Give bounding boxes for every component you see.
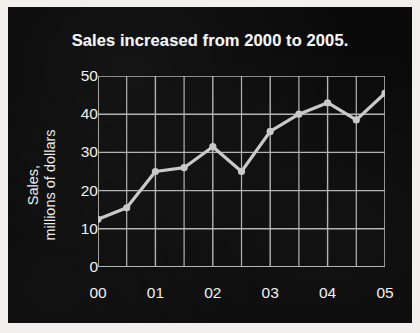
- data-point-marker: [267, 128, 274, 135]
- data-point-marker: [209, 143, 216, 150]
- data-point-marker: [181, 164, 188, 171]
- x-tick-label: 01: [135, 285, 175, 301]
- x-tick-label: 03: [250, 285, 290, 301]
- plot-area: [98, 76, 385, 267]
- data-point-marker: [353, 116, 360, 123]
- x-tick-label: 02: [193, 285, 233, 301]
- chart-figure: Sales increased from 2000 to 2005. Sales…: [0, 0, 420, 333]
- line-chart-svg: [98, 76, 385, 267]
- x-tick-label: 00: [78, 285, 118, 301]
- x-tick-label: 04: [308, 285, 348, 301]
- data-point-marker: [324, 99, 331, 106]
- data-point-marker: [152, 168, 159, 175]
- data-point-marker: [295, 111, 302, 118]
- chart-plate: Sales increased from 2000 to 2005. Sales…: [8, 7, 412, 323]
- data-point-marker: [123, 204, 130, 211]
- data-point-marker: [238, 168, 245, 175]
- x-tick-label: 05: [365, 285, 405, 301]
